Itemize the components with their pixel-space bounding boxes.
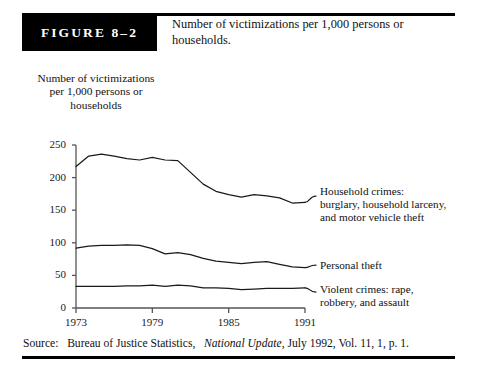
annotation-leader-lines: [305, 196, 316, 292]
leader-line-2: [305, 288, 316, 292]
annotation-personal-theft: Personal theft: [320, 259, 470, 272]
y-tick-label: 150: [32, 203, 66, 215]
y-tick-label: 200: [32, 171, 66, 183]
source-prefix: Source:: [23, 337, 58, 350]
source-publisher: Bureau of Justice Statistics,: [67, 337, 195, 350]
annotation-personal-line-1: Personal theft: [320, 259, 470, 272]
y-tick-label: 250: [32, 138, 66, 150]
source-publication: National Update: [204, 337, 282, 350]
annotation-violent-crimes: Violent crimes: rape, robbery, and assau…: [320, 283, 475, 309]
x-axis-ticks: [76, 308, 305, 313]
leader-line-0: [305, 196, 316, 202]
y-tick-label: 0: [32, 301, 66, 313]
annotation-household-line-2: burglary, household larceny,: [320, 198, 470, 211]
source-note: Source: Bureau of Justice Statistics, Na…: [23, 337, 409, 350]
annotation-household-line-3: and motor vehicle theft: [320, 211, 470, 224]
annotation-household-crimes: Household crimes: burglary, household la…: [320, 185, 470, 225]
source-details: , July 1992, Vol. 11, 1, p. 1.: [282, 337, 409, 350]
annotation-violent-line-2: robbery, and assault: [320, 296, 475, 309]
x-tick-label: 1979: [130, 316, 174, 328]
series-line-0: [76, 154, 305, 203]
x-tick-label: 1973: [54, 316, 98, 328]
chart-series-group: [76, 154, 305, 290]
annotation-violent-line-1: Violent crimes: rape,: [320, 283, 475, 296]
series-line-2: [76, 285, 305, 290]
y-tick-label: 50: [32, 268, 66, 280]
x-tick-label: 1985: [207, 316, 251, 328]
leader-line-1: [305, 265, 316, 268]
x-tick-label: 1991: [283, 316, 327, 328]
y-tick-label: 100: [32, 236, 66, 248]
annotation-household-line-1: Household crimes:: [320, 185, 470, 198]
series-line-1: [76, 245, 305, 268]
